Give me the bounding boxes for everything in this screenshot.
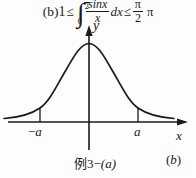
caption-dash: − xyxy=(93,156,100,171)
tick-label-a: a xyxy=(134,124,141,140)
caption-part: (a) xyxy=(101,156,116,171)
x-axis-label: x xyxy=(176,128,182,144)
differential: dx xyxy=(110,4,122,20)
caption-cjk: 例 xyxy=(74,156,87,171)
right-bound-numerator: π xyxy=(133,0,143,12)
figure-tag-b: (b) xyxy=(166,152,181,168)
y-axis-arrowhead xyxy=(85,25,92,36)
formula-part-label: (b) xyxy=(43,4,59,20)
fig-tag-close: ) xyxy=(177,152,181,167)
figure-page: (b)1≤ ∫ π 2 0 sinx x dx≤ π 2 π xyxy=(0,0,196,178)
minus-a-value: a xyxy=(35,124,42,139)
figure-caption: 例3−(a) xyxy=(50,153,140,172)
formula-left-bound: 1 xyxy=(59,4,66,20)
right-bound-fraction: π 2 xyxy=(133,0,143,24)
right-bound-trailing-pi: π xyxy=(147,5,153,20)
integrand-numerator: sinx xyxy=(86,0,109,12)
x-axis-arrowhead xyxy=(177,118,188,125)
formula-relation-left: ≤ xyxy=(67,4,74,20)
formula-relation-right: ≤ xyxy=(124,4,131,20)
y-axis-label: y xyxy=(93,18,99,34)
tick-label-minus-a: −a xyxy=(28,124,42,140)
